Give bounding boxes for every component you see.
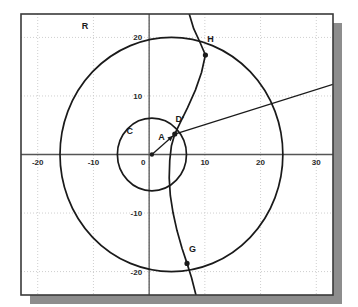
y-tick-label: 10 [133, 92, 142, 101]
point-D-prime [172, 131, 177, 136]
point-label-g: G [189, 244, 196, 254]
x-tick-label: -20 [32, 158, 44, 167]
x-tick-label: -10 [88, 158, 100, 167]
geometry-figure: -20-1001020302010-10-20RCAHD'G [0, 0, 358, 307]
shape-label-a: A [158, 132, 165, 142]
shape-label-c: C [126, 126, 133, 136]
point-origin [150, 152, 154, 156]
shape-label-r: R [82, 21, 89, 31]
y-tick-label: 20 [133, 33, 142, 42]
x-tick-label-origin: 0 [141, 158, 146, 167]
point-H [203, 52, 208, 57]
point-label-d-prime: D' [175, 114, 184, 124]
y-tick-label: -10 [131, 209, 143, 218]
point-G [184, 261, 189, 266]
x-tick-label: 10 [200, 158, 209, 167]
y-tick-label: -20 [131, 268, 143, 277]
point-label-h: H [207, 34, 214, 44]
x-tick-label: 20 [256, 158, 265, 167]
x-tick-label: 30 [312, 158, 321, 167]
plot-canvas: -20-1001020302010-10-20RCAHD'G [0, 0, 358, 307]
